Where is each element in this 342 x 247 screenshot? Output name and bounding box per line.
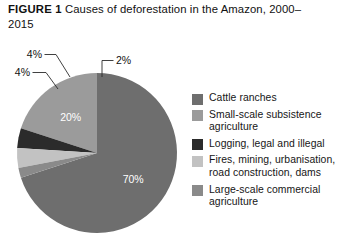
legend-item-label: Logging, legal and illegal — [209, 138, 325, 151]
slice-callout-label: 4% — [27, 48, 42, 60]
legend-color-swatch — [192, 94, 203, 105]
legend-color-swatch — [192, 156, 203, 167]
legend-color-swatch — [192, 185, 203, 196]
legend-item-label: Cattle ranches — [209, 92, 277, 105]
legend-color-swatch — [192, 110, 203, 121]
legend-item[interactable]: Logging, legal and illegal — [192, 138, 342, 151]
slice-callout-label: 4% — [15, 66, 30, 78]
legend-item-label: Large-scale commercial agriculture — [209, 184, 342, 209]
slice-value-label: 70% — [123, 173, 144, 185]
pie-slices — [17, 73, 177, 233]
chart-legend: Cattle ranchesSmall-scale subsistence ag… — [192, 92, 342, 213]
legend-color-swatch — [192, 139, 203, 150]
figure-title: FIGURE 1 Causes of deforestation in the … — [8, 2, 318, 31]
legend-item-label: Fires, mining, urbanisation, road constr… — [209, 154, 342, 179]
slice-value-label: 20% — [60, 111, 81, 123]
legend-item[interactable]: Small-scale subsistence agriculture — [192, 109, 342, 134]
leader-line — [45, 55, 71, 78]
pie-chart-svg: 70%20%4%4%2% — [0, 36, 200, 247]
slice-callout-label: 2% — [116, 54, 131, 66]
legend-item[interactable]: Fires, mining, urbanisation, road constr… — [192, 154, 342, 179]
pie-chart: 70%20%4%4%2% — [0, 36, 200, 247]
legend-item-label: Small-scale subsistence agriculture — [209, 109, 342, 134]
legend-item[interactable]: Cattle ranches — [192, 92, 342, 105]
figure-number: FIGURE 1 — [8, 3, 62, 15]
legend-item[interactable]: Large-scale commercial agriculture — [192, 184, 342, 209]
